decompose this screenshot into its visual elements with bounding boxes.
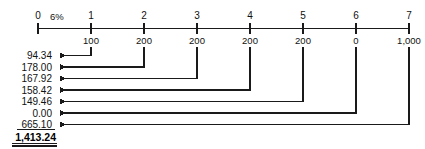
- cash-flow-period-3: 200: [179, 36, 215, 46]
- axis-tick-label-5: 5: [288, 11, 318, 21]
- present-value-period-4: 158.42: [0, 85, 52, 96]
- axis-tick-label-4: 4: [235, 11, 265, 21]
- axis-tick-label-1: 1: [76, 11, 106, 21]
- present-value-period-5: 149.46: [0, 96, 52, 107]
- interest-rate-label: 6%: [50, 12, 64, 22]
- connector-period-1: [60, 47, 91, 56]
- present-value-period-1: 94.34: [0, 50, 52, 61]
- cash-flow-period-2: 200: [126, 36, 162, 46]
- present-value-period-2: 178.00: [0, 62, 52, 73]
- present-value-total: 1,413.24: [0, 132, 56, 143]
- cash-flow-period-1: 100: [73, 36, 109, 46]
- timeline-diagram: 0 1 2 3 4 5 6 7 6% 100 200 200 200 200 0…: [0, 0, 425, 149]
- timeline-graphics: [0, 0, 425, 149]
- connector-period-5: [60, 47, 303, 102]
- connector-period-6: [60, 47, 356, 113]
- axis-tick-label-6: 6: [341, 11, 371, 21]
- cash-flow-period-4: 200: [232, 36, 268, 46]
- axis-tick-label-7: 7: [394, 11, 424, 21]
- present-value-period-6: 0.00: [0, 108, 52, 119]
- pv-connectors: [60, 47, 409, 125]
- axis-tick-label-3: 3: [182, 11, 212, 21]
- present-value-period-7: 665.10: [0, 119, 52, 130]
- cash-flow-period-5: 200: [285, 36, 321, 46]
- axis-tick-label-2: 2: [129, 11, 159, 21]
- connector-period-3: [60, 47, 197, 79]
- axis-tick-label-0: 0: [23, 11, 53, 21]
- cash-flow-period-7: 1,000: [391, 36, 425, 46]
- cash-flow-period-6: 0: [338, 36, 374, 46]
- connector-period-2: [60, 47, 144, 67]
- present-value-period-3: 167.92: [0, 73, 52, 84]
- connector-period-4: [60, 47, 250, 90]
